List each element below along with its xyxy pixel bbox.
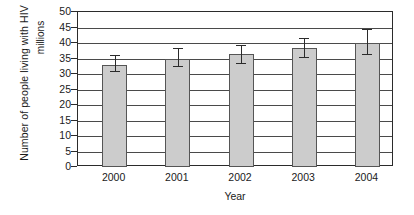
error-bar-line xyxy=(304,38,305,57)
y-axis-tick-label: 10 xyxy=(45,130,71,141)
y-axis-tick-mark xyxy=(71,166,77,167)
y-axis-tick-label: 45 xyxy=(45,21,71,32)
bar xyxy=(229,54,254,167)
y-axis-tick-label: 5 xyxy=(45,145,71,156)
error-bar-line xyxy=(178,48,179,67)
error-bar-cap-upper xyxy=(236,45,246,46)
error-bar-cap-lower xyxy=(173,66,183,67)
y-axis-tick-label: 0 xyxy=(45,161,71,172)
x-axis-tick-label: 2002 xyxy=(210,171,270,183)
y-axis-tick-label: 35 xyxy=(45,52,71,63)
error-bar-cap-lower xyxy=(236,63,246,64)
error-bar-cap-lower xyxy=(299,57,309,58)
x-axis-tick-label: 2000 xyxy=(84,171,144,183)
error-bar-cap-lower xyxy=(362,54,372,55)
plot-area xyxy=(77,11,393,166)
chart-figure: Number of people living with HIV million… xyxy=(0,0,414,215)
y-axis-tick-label: 20 xyxy=(45,99,71,110)
y-axis-units-label: millions xyxy=(35,3,46,73)
y-axis-title: Number of people living with HIV xyxy=(18,0,30,173)
error-bar-cap-upper xyxy=(110,55,120,56)
y-axis-tick-label: 25 xyxy=(45,83,71,94)
error-bar-line xyxy=(367,29,368,54)
bar xyxy=(165,59,190,168)
x-axis-tick-label: 2004 xyxy=(336,171,396,183)
bar xyxy=(102,65,127,167)
bar xyxy=(292,48,317,167)
error-bar-cap-upper xyxy=(299,38,309,39)
x-axis-tick-label: 2001 xyxy=(147,171,207,183)
error-bar-cap-upper xyxy=(173,48,183,49)
y-axis-tick-label: 40 xyxy=(45,37,71,48)
x-axis-title: Year xyxy=(77,190,393,202)
error-bar-cap-upper xyxy=(362,29,372,30)
error-bar-cap-lower xyxy=(110,71,120,72)
gridline xyxy=(78,43,392,44)
error-bar-line xyxy=(115,55,116,71)
y-axis-tick-label: 50 xyxy=(45,6,71,17)
bar xyxy=(355,43,380,167)
y-axis-tick-label: 15 xyxy=(45,114,71,125)
y-axis-tick-label: 30 xyxy=(45,68,71,79)
x-axis-tick-label: 2003 xyxy=(273,171,333,183)
gridline xyxy=(78,28,392,29)
error-bar-line xyxy=(241,45,242,64)
